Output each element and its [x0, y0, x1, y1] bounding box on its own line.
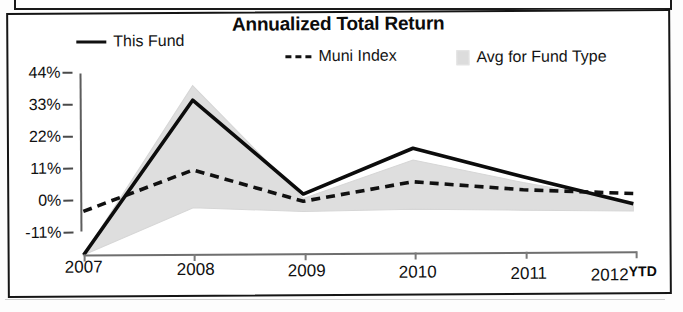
legend-item-muni-index: Muni Index — [285, 47, 396, 66]
y-axis-spine — [81, 74, 82, 232]
legend-label-this-fund: This Fund — [113, 32, 184, 50]
y-axis-tick-mark — [63, 104, 73, 106]
x-axis-tick-label: 2007 — [65, 257, 103, 277]
legend-label-muni-index: Muni Index — [318, 47, 396, 65]
legend-item-this-fund: This Fund — [76, 32, 184, 51]
y-axis-tick-label: 0% — [38, 192, 61, 210]
return-series-plot — [81, 71, 634, 234]
legend-item-avg-for-fund-type: Avg for Fund Type — [456, 47, 606, 66]
upper-panel-partial-border — [14, 0, 672, 10]
shaded-box-swatch-icon — [456, 50, 469, 65]
y-axis-tick-label: 44% — [28, 64, 60, 82]
y-axis-tick-mark — [63, 168, 73, 170]
avg-for-fund-type-band — [83, 83, 634, 255]
dashed-line-swatch-icon — [285, 55, 311, 58]
x-axis-tick-label: 2010 — [399, 262, 437, 282]
y-axis-tick-mark — [63, 232, 73, 234]
plot-area — [81, 71, 634, 229]
x-axis-tick-label: 2011 — [510, 264, 547, 284]
solid-line-swatch-icon — [76, 40, 106, 43]
legend-label-avg-for-fund-type: Avg for Fund Type — [476, 47, 606, 66]
y-axis-tick-mark — [63, 136, 73, 138]
y-axis-tick-label: 11% — [30, 160, 61, 178]
chart-legend: This Fund Muni Index Avg for Fund Type — [8, 11, 668, 71]
x-axis-tick-label: 2009 — [288, 261, 326, 281]
x-axis-tick-label: 2008 — [177, 260, 215, 280]
y-axis-tick-mark — [63, 200, 73, 202]
annualized-total-return-chart-panel: Annualized Total Return This Fund Muni I… — [6, 9, 672, 298]
x-axis-ytd-annotation: YTD — [629, 263, 657, 279]
page-edge-line — [5, 299, 665, 300]
y-axis-tick-label: 33% — [29, 96, 61, 114]
y-axis-tick-label: -11% — [25, 224, 61, 242]
y-axis-tick-mark — [62, 72, 72, 74]
x-axis: 2007 2008 2009 2010 2011 2012 — [10, 254, 670, 288]
x-axis-tick-label: 2012 — [591, 265, 629, 285]
y-axis-tick-label: 22% — [29, 128, 61, 146]
